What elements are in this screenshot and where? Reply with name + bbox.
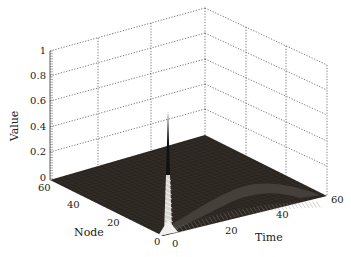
z-tick: 0.6 [30, 95, 46, 106]
node-axis-label: Node [74, 226, 104, 239]
time-axis-label: Time [255, 231, 283, 244]
z-axis-label: Value [8, 111, 21, 143]
node-tick: 20 [107, 217, 120, 228]
z-tick: 1 [40, 45, 46, 56]
node-tick: 0 [154, 236, 160, 247]
z-axis [50, 51, 53, 180]
time-tick: 60 [331, 194, 344, 205]
time-tick: 40 [276, 209, 289, 220]
surface-plot-3d: 1 0.8 0.6 0.4 0.2 0 60 40 20 0 0 20 40 6… [0, 0, 351, 257]
node-tick: 60 [38, 182, 51, 193]
node-tick: 40 [67, 199, 80, 210]
z-tick: 0.8 [30, 70, 46, 81]
z-tick: 0.2 [30, 146, 46, 157]
z-tick: 0.4 [30, 121, 46, 132]
time-tick: 20 [225, 225, 238, 236]
z-tick-labels: 1 0.8 0.6 0.4 0.2 0 [30, 45, 46, 183]
time-tick: 0 [172, 238, 178, 249]
